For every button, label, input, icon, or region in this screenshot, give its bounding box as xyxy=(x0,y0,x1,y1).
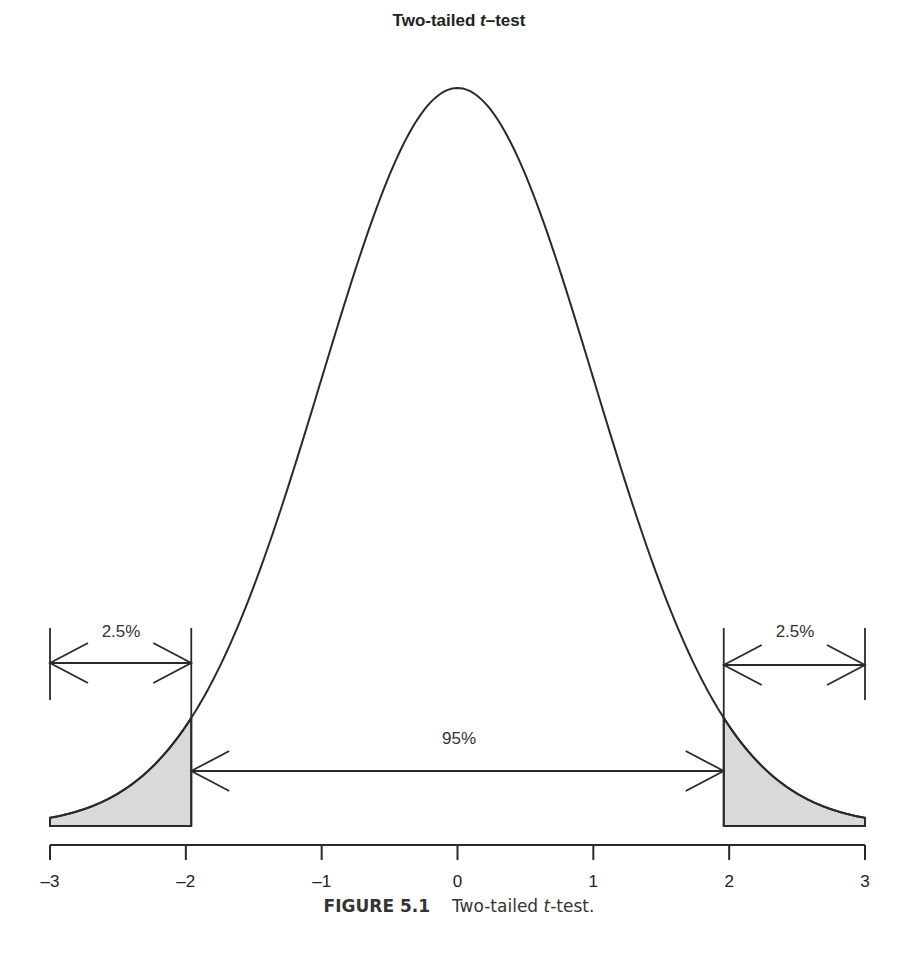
right-tail-label: 2.5% xyxy=(776,622,815,641)
x-tick-label: 3 xyxy=(860,872,869,891)
x-tick-label: –3 xyxy=(41,872,60,891)
shaded-tail xyxy=(724,718,865,826)
x-tick-label: –1 xyxy=(312,872,331,891)
figure-caption: FIGURE 5.1Two-tailed t-test. xyxy=(0,896,918,916)
x-tick-label: 0 xyxy=(453,872,462,891)
shaded-tail xyxy=(50,718,191,826)
x-tick-label: 2 xyxy=(724,872,733,891)
chart-title: Two-tailed t–test xyxy=(393,11,526,30)
x-tick-label: 1 xyxy=(589,872,598,891)
left-tail-label: 2.5% xyxy=(102,622,141,641)
x-tick-label: –2 xyxy=(176,872,195,891)
x-axis: –3–2–10123 xyxy=(41,845,870,891)
figure-number: FIGURE 5.1 xyxy=(324,896,430,916)
middle-label: 95% xyxy=(442,729,476,748)
density-curve xyxy=(50,88,865,818)
t-test-chart: Two-tailed t–test –3–2–10123 2.5% 2.5% 9… xyxy=(0,0,918,966)
